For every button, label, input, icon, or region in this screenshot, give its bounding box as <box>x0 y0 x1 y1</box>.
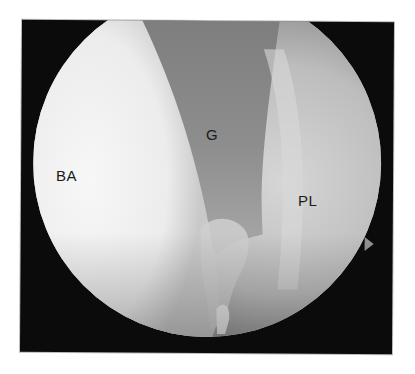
arthroscope-view-circle <box>32 20 382 338</box>
label-g: G <box>206 127 218 142</box>
label-ba: BA <box>56 168 77 183</box>
scope-orientation-notch <box>365 237 374 251</box>
arthroscopy-figure: BA G PL <box>0 0 415 374</box>
label-pl: PL <box>298 193 317 208</box>
image-frame <box>20 20 394 354</box>
tissue-regions <box>32 20 382 338</box>
